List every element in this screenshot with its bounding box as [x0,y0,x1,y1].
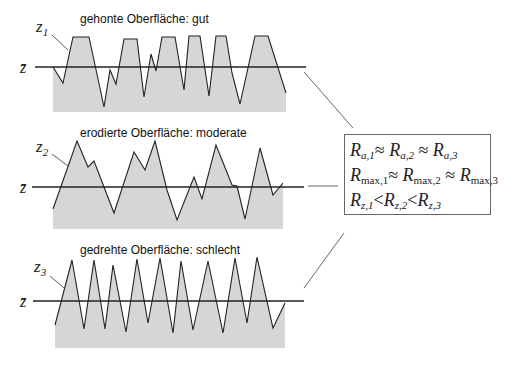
mean-symbol-1: z̄ [19,59,27,76]
relation-ra: Ra,1≈ Ra,2 ≈ Ra,3 [350,138,490,163]
roughness-relations-box: Ra,1≈ Ra,2 ≈ Ra,3 Rmax,1≈ Rmax,2 ≈ Rmax,… [344,134,491,215]
connector-line-1 [304,72,353,128]
relation-rz: Rz,1<Rz,2<Rz,3 [350,188,490,213]
label-leader-3 [50,276,64,288]
profile-title-1: gehonte Oberfläche: gut [80,12,209,26]
z3-label: z3 [33,257,47,278]
mean-symbol-2: z̄ [19,179,27,196]
label-leader-2 [52,154,68,166]
profile-title-3: gedrehte Oberfläche: schlecht [80,243,241,257]
label-leader-1 [52,35,68,50]
profile-z3: gedrehte Oberfläche: schlecht z3 z̄ [19,243,304,348]
profile-fill-2 [53,141,283,229]
profile-z2: erodierte Oberfläche: moderate z2 z̄ [19,126,304,229]
mean-symbol-3: z̄ [19,293,27,310]
z1-label: z1 [35,17,48,38]
relation-rmax: Rmax,1≈ Rmax,2 ≈ Rmax,3 [350,163,490,188]
connector-line-3 [304,233,344,288]
z2-label: z2 [35,137,49,158]
profile-z1: gehonte Oberfläche: gut z1 z̄ [19,12,306,112]
profile-fill-1 [53,36,286,112]
profile-title-2: erodierte Oberfläche: moderate [80,126,247,140]
